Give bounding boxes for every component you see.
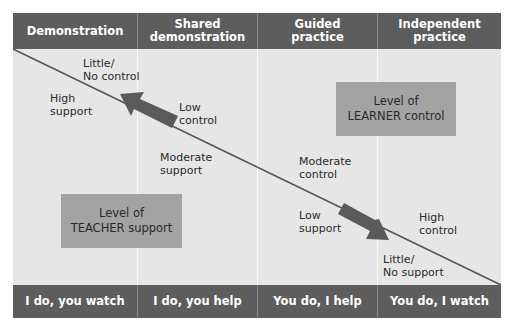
label-line: No control — [83, 70, 140, 83]
label-line: Moderate — [160, 151, 212, 164]
header-shared-demonstration-label: Shared demonstration — [150, 18, 245, 44]
footer-you-do-i-watch: You do, I watch — [377, 285, 501, 318]
label-low-control: Low control — [179, 101, 217, 127]
label-line: High — [419, 211, 444, 224]
label-line: support — [50, 105, 92, 118]
box-line: Level of — [373, 94, 418, 108]
label-high-support: High support — [50, 92, 92, 118]
teacher-support-box-text: Level of TEACHER support — [71, 206, 173, 236]
label-moderate-control: Moderate control — [299, 155, 351, 181]
learner-control-box-text: Level of LEARNER control — [348, 94, 445, 124]
footer-label: I do, you watch — [25, 295, 124, 308]
footer-bar: I do, you watch I do, you help You do, I… — [13, 285, 501, 318]
footer-label: I do, you help — [153, 295, 242, 308]
label-line: Low — [299, 209, 321, 222]
footer-label: You do, I help — [273, 295, 361, 308]
label-line: control — [299, 168, 337, 181]
header-demonstration: Demonstration — [13, 13, 137, 49]
header-line: practice — [413, 30, 466, 44]
box-line: TEACHER support — [71, 221, 173, 235]
header-guided-practice: Guided practice — [257, 13, 377, 49]
header-bar: Demonstration Shared demonstration Guide… — [13, 13, 501, 49]
footer-i-do-you-help: I do, you help — [137, 285, 257, 318]
label-little-no-control: Little/ No control — [83, 57, 140, 83]
header-guided-practice-label: Guided practice — [291, 18, 344, 44]
header-line: Shared — [175, 17, 221, 31]
column-divider — [137, 49, 138, 285]
footer-label: You do, I watch — [390, 295, 489, 308]
label-line: support — [160, 164, 202, 177]
teacher-support-box: Level of TEACHER support — [61, 194, 182, 248]
label-little-no-support: Little/ No support — [383, 253, 444, 279]
header-line: demonstration — [150, 30, 245, 44]
column-divider — [257, 49, 258, 285]
label-line: Little/ — [383, 253, 414, 266]
footer-i-do-you-watch: I do, you watch — [13, 285, 137, 318]
header-independent-practice: Independent practice — [377, 13, 501, 49]
label-high-control: High control — [419, 211, 457, 237]
box-line: Level of — [99, 206, 144, 220]
label-line: Low — [179, 101, 201, 114]
header-demonstration-label: Demonstration — [27, 25, 124, 38]
header-shared-demonstration: Shared demonstration — [137, 13, 257, 49]
label-line: Moderate — [299, 155, 351, 168]
label-line: control — [179, 114, 217, 127]
header-line: Independent — [398, 17, 480, 31]
label-line: support — [299, 222, 341, 235]
footer-you-do-i-help: You do, I help — [257, 285, 377, 318]
label-line: High — [50, 92, 75, 105]
header-line: Guided — [295, 17, 341, 31]
header-line: practice — [291, 30, 344, 44]
label-line: No support — [383, 266, 444, 279]
label-line: control — [419, 224, 457, 237]
box-line: LEARNER control — [348, 109, 445, 123]
label-moderate-support: Moderate support — [160, 151, 212, 177]
header-independent-practice-label: Independent practice — [398, 18, 480, 44]
label-line: Little/ — [83, 57, 114, 70]
label-low-support: Low support — [299, 209, 341, 235]
learner-control-box: Level of LEARNER control — [336, 82, 456, 136]
